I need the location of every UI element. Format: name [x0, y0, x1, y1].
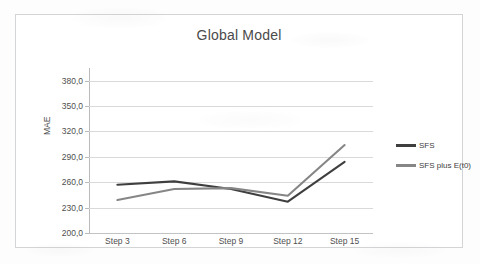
legend-item-label: SFS plus E(t0)	[419, 161, 471, 170]
legend-item-label: SFS	[419, 141, 435, 150]
series-lines-group	[89, 68, 373, 233]
series-line-sfs	[117, 162, 344, 202]
chart-legend: SFSSFS plus E(t0)	[396, 141, 480, 181]
series-line-sfs-plus-e-t0	[117, 145, 344, 200]
y-axis-tick-label: 350,0	[62, 101, 83, 111]
legend-item[interactable]: SFS	[396, 141, 480, 150]
plot-area: 380,0350,0320,0290,0260,0230,0200,0	[89, 68, 373, 233]
chart-frame: Global Model MAE 380,0350,0320,0290,0260…	[15, 14, 463, 248]
x-axis-tick-label: Step 3	[89, 236, 146, 252]
legend-item[interactable]: SFS plus E(t0)	[396, 161, 480, 170]
legend-line-swatch-icon	[396, 144, 416, 147]
y-axis-tick-label: 320,0	[62, 126, 83, 136]
y-axis-tick-mark	[85, 233, 89, 234]
y-axis-tick-label: 230,0	[62, 203, 83, 213]
x-axis-tick-label: Step 9	[203, 236, 260, 252]
chart-title: Global Model	[16, 27, 462, 43]
gridline	[89, 233, 373, 234]
x-axis-tick-label: Step 12	[259, 236, 316, 252]
y-axis-title: MAE	[42, 117, 52, 135]
legend-line-swatch-icon	[396, 164, 416, 167]
y-axis-tick-label: 260,0	[62, 177, 83, 187]
y-axis-tick-label: 380,0	[62, 76, 83, 86]
x-axis-tick-label: Step 6	[146, 236, 203, 252]
y-axis-tick-label: 290,0	[62, 152, 83, 162]
x-axis-tick-label: Step 15	[316, 236, 373, 252]
x-axis-labels: Step 3Step 6Step 9Step 12Step 15	[89, 236, 373, 252]
y-axis-tick-label: 200,0	[62, 228, 83, 238]
